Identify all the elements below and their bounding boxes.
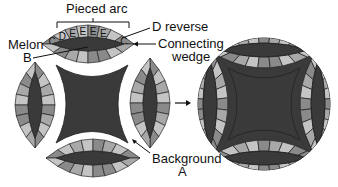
piece-letter: E — [69, 28, 76, 39]
label-pieced-arc: Pieced arc — [66, 1, 128, 16]
arc-segment — [323, 119, 334, 136]
d-reverse-leader — [122, 28, 150, 38]
piece-letter: E — [80, 26, 87, 37]
label-wedge: wedge — [171, 49, 210, 64]
arc-segment — [279, 163, 296, 174]
quilt-diagram: CDEEEEC Pieced arc D reverse Melon B Con… — [0, 0, 338, 187]
arc-segment — [300, 98, 311, 110]
arc-segment — [194, 73, 205, 90]
arc-segment — [233, 163, 250, 174]
arc-segment — [233, 34, 250, 45]
arc-segment — [194, 119, 205, 136]
arc-segment — [258, 57, 270, 68]
arc-segment — [258, 140, 270, 151]
label-background: Background — [152, 151, 221, 166]
arc-segment — [323, 73, 334, 90]
piece-letter: E — [100, 28, 107, 39]
arc-segment — [279, 34, 296, 45]
melon-right — [130, 58, 170, 148]
background-piece-a — [56, 65, 128, 143]
label-d-reverse: D reverse — [152, 19, 208, 34]
arrow-to-assembled — [175, 100, 191, 106]
melon-left — [15, 62, 55, 148]
label-melon-b: B — [23, 50, 32, 65]
label-background-a: A — [178, 164, 187, 179]
melon-top: CDEEEEC — [42, 25, 134, 63]
arc-segment — [217, 98, 228, 110]
quilt-diagram-svg: CDEEEEC Pieced arc D reverse Melon B Con… — [0, 0, 338, 187]
piece-letter: E — [90, 26, 97, 37]
melon-bottom — [46, 139, 140, 177]
assembled-background — [228, 68, 300, 140]
